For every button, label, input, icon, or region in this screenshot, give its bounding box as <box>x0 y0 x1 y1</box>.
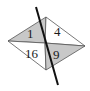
label-bottom-right: 9 <box>53 47 60 62</box>
label-top-right: 4 <box>54 24 61 39</box>
label-top-left: 1 <box>27 26 34 41</box>
label-bottom-left: 16 <box>25 46 39 61</box>
region-top-right <box>45 17 85 46</box>
quadrilateral-diagram: 1 4 16 9 <box>0 0 90 91</box>
diagram-canvas: 1 4 16 9 <box>0 0 90 91</box>
